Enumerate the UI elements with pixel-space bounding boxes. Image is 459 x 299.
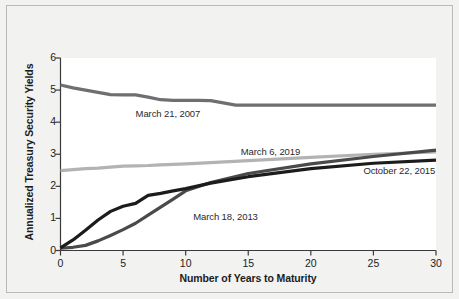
series-label: March 18, 2013 [193,211,258,222]
y-axis-ticks [56,58,61,251]
y-tick-label: 6 [44,51,56,63]
x-axis-title: Number of Years to Maturity [60,272,436,284]
y-axis-title: Annualized Treasury Security Yields [23,47,35,257]
line-chart-svg [0,0,459,299]
x-tick-label: 25 [358,257,388,269]
chart-figure: Annualized Treasury Security Yields Numb… [0,0,459,299]
x-tick-label: 0 [46,257,76,269]
series-label: March 6, 2019 [241,146,300,157]
x-axis-ticks [61,251,437,256]
y-tick-label: 1 [44,211,56,223]
y-tick-label: 3 [44,147,56,159]
y-tick-label: 0 [44,244,56,256]
x-tick-label: 15 [233,257,263,269]
x-tick-label: 20 [296,257,326,269]
series-label: October 22, 2015 [363,165,435,176]
x-tick-label: 10 [171,257,201,269]
plot-area: Annualized Treasury Security Yields Numb… [0,0,459,299]
y-tick-label: 5 [44,83,56,95]
y-tick-label: 4 [44,115,56,127]
y-tick-label: 2 [44,179,56,191]
series-label: March 21, 2007 [136,108,201,119]
x-tick-label: 5 [108,257,138,269]
x-tick-label: 30 [421,257,451,269]
